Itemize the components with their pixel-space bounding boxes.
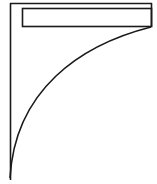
- bracket-diagram: [0, 0, 157, 184]
- bracket-drawing: [0, 0, 157, 184]
- bracket-curve: [10, 27, 151, 178]
- shelf-rect: [23, 9, 152, 27]
